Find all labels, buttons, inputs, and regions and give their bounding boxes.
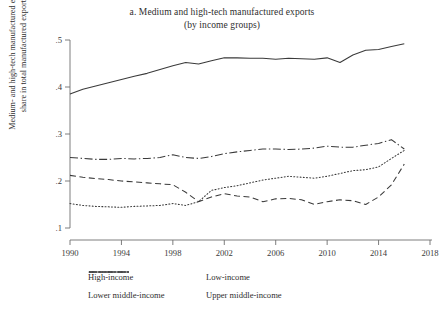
y-tick-label: .2 [56, 176, 62, 186]
legend-label-low-income: Low-income [206, 272, 250, 282]
x-tick-label: 2002 [216, 248, 233, 258]
x-tick-label: 1990 [61, 248, 78, 258]
x-tick-group: 19901994199820022006201020142018 [61, 240, 438, 258]
plot-area: .1.2.3.4.5 19901994199820022006201020142… [0, 0, 444, 314]
legend-key-dashdot-icon [88, 268, 130, 276]
chart-figure: a. Medium and high-tech manufactured exp… [0, 0, 444, 314]
x-tick-label: 1994 [113, 248, 131, 258]
x-tick-label: 2018 [421, 248, 438, 258]
legend-item-low-income[interactable]: Low-income [206, 272, 400, 282]
x-tick-label: 2006 [267, 248, 285, 258]
x-tick-label: 2014 [370, 248, 388, 258]
legend-item-lower-middle-income[interactable]: Lower middle-income [88, 290, 206, 300]
legend-label-lower-middle-income: Lower middle-income [88, 290, 165, 300]
legend-item-upper-middle-income[interactable]: Upper middle-income [206, 290, 400, 300]
y-tick-group: .1.2.3.4.5 [56, 35, 70, 233]
y-tick-label: .4 [56, 82, 63, 92]
y-tick-label: .5 [56, 35, 62, 45]
chart-legend: High-income Low-income Lower middle-inco… [88, 268, 400, 304]
legend-label-upper-middle-income: Upper middle-income [206, 290, 282, 300]
x-tick-label: 2010 [319, 248, 336, 258]
series-layer [70, 44, 404, 208]
axis-layer [70, 40, 432, 240]
series-line-upper-middle-income [70, 140, 404, 160]
x-tick-label: 1998 [164, 248, 181, 258]
y-tick-label: .3 [56, 129, 62, 139]
y-tick-label: .1 [56, 223, 62, 233]
series-line-high-income [70, 44, 404, 94]
